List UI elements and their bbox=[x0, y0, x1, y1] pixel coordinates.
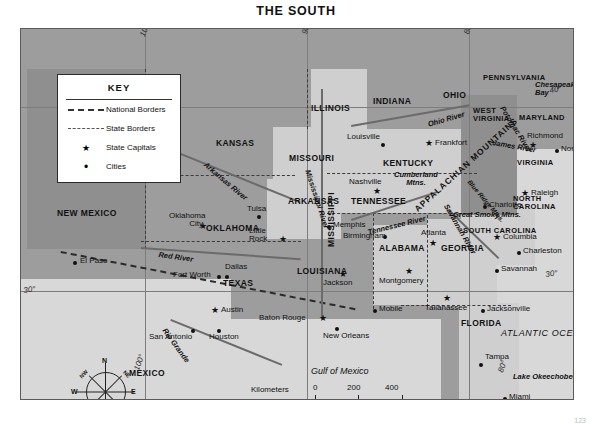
city-marker-fort-worth bbox=[217, 275, 221, 279]
city-label-tulsa: Tulsa bbox=[247, 205, 266, 213]
key-item-state-capitals: ★ State Capitals bbox=[58, 138, 180, 157]
city-label-fort-worth: Fort Worth bbox=[173, 271, 211, 279]
coord-label-30n-right: 30° bbox=[545, 269, 558, 279]
city-marker-louisville bbox=[381, 143, 385, 147]
compass-label-w: W bbox=[71, 388, 78, 395]
capital-label-richmond: Richmond bbox=[527, 132, 563, 140]
coord-label-30n-left: 30° bbox=[23, 285, 36, 295]
state-label-ohio: OHIO bbox=[443, 91, 466, 100]
key-item-label: State Borders bbox=[106, 124, 155, 133]
capital-label-nashville: Nashville bbox=[349, 178, 381, 186]
city-marker-miami bbox=[503, 397, 507, 400]
feature-label-ohio-river: Ohio River bbox=[427, 111, 466, 129]
feature-label-arkansas-river: Arkansas River bbox=[202, 161, 249, 202]
city-label-louisville: Louisville bbox=[347, 133, 380, 141]
dashed-thin-line-icon bbox=[66, 128, 106, 129]
coord-label-90w-top: 90° bbox=[301, 28, 312, 35]
state-label-texas: TEXAS bbox=[223, 279, 253, 288]
key-item-label: State Capitals bbox=[106, 143, 156, 152]
map-page: THE SOUTH bbox=[0, 0, 592, 424]
city-marker-charleston bbox=[517, 251, 521, 255]
state-label-alabama: ALABAMA bbox=[379, 244, 425, 253]
scale-km-tickmark bbox=[358, 395, 359, 400]
feature-label-lake-okeechobee: Lake Okeechobee bbox=[513, 373, 574, 381]
city-marker-jacksonville bbox=[481, 309, 485, 313]
key-item-state-borders: State Borders bbox=[58, 119, 180, 138]
state-label-maryland: MARYLAND bbox=[519, 114, 565, 122]
city-label-dallas: Dallas bbox=[225, 263, 247, 271]
compass-label-nw: NW bbox=[78, 369, 89, 380]
compass-label-n: N bbox=[102, 357, 107, 364]
capital-label-tallahassee: Tallahassee bbox=[425, 304, 467, 312]
city-label-jacksonville: Jacksonville bbox=[487, 305, 530, 313]
compass-label-e: E bbox=[131, 388, 136, 395]
capital-label-atlanta: Atlanta bbox=[421, 229, 446, 237]
capital-marker-frankfort: ★ bbox=[425, 139, 433, 148]
state-label-missouri: MISSOURI bbox=[289, 154, 334, 163]
capital-label-raleigh: Raleigh bbox=[531, 189, 558, 197]
capital-label-jackson: Jackson bbox=[323, 279, 352, 287]
key-item-label: Cities bbox=[106, 162, 126, 171]
city-label-miami: Miami bbox=[509, 393, 530, 400]
city-marker-norfolk bbox=[555, 149, 559, 153]
map-canvas[interactable]: APPALACHIAN MOUNTAINS NEW MEXICO TEXAS O… bbox=[20, 28, 574, 400]
state-label-virginia: VIRGINIA bbox=[517, 159, 554, 167]
capital-marker-nashville: ★ bbox=[373, 187, 381, 196]
city-label-new-orleans: New Orleans bbox=[323, 332, 369, 340]
city-label-charleston: Charleston bbox=[523, 247, 562, 255]
feature-label-cumberland-mtns: Cumberland Mtns. bbox=[393, 171, 439, 186]
compass-spoke-ns bbox=[105, 363, 106, 400]
capital-label-oklahoma-city: Oklahoma City bbox=[169, 212, 203, 228]
city-marker-dallas bbox=[225, 275, 229, 279]
city-marker-tampa bbox=[479, 363, 483, 367]
page-title: THE SOUTH bbox=[0, 4, 592, 18]
city-marker-tulsa bbox=[257, 215, 261, 219]
scale-km-tick-0: 0 bbox=[313, 383, 317, 392]
state-label-illinois: ILLINOIS bbox=[311, 104, 350, 113]
key-item-national-borders: National Borders bbox=[58, 100, 180, 119]
city-label-houston: Houston bbox=[209, 333, 239, 341]
capital-label-montgomery: Montgomery bbox=[379, 277, 423, 285]
page-number: 123 bbox=[574, 417, 586, 424]
parallel-30 bbox=[21, 291, 573, 292]
scale-kilometers-label: Kilometers bbox=[251, 385, 289, 394]
map-key[interactable]: KEY National Borders State Borders ★ Sta… bbox=[57, 74, 181, 183]
capital-label-austin: Austin bbox=[221, 306, 243, 314]
city-label-savannah: Savannah bbox=[501, 265, 537, 273]
capital-label-frankfort: Frankfort bbox=[435, 139, 467, 147]
map-scale: Kilometers SCALE Miles 0 200 400 0 100 2… bbox=[251, 377, 451, 400]
scale-km-tick-200: 200 bbox=[347, 383, 360, 392]
city-marker-savannah bbox=[495, 269, 499, 273]
scale-bar-kilometers bbox=[315, 395, 403, 400]
key-item-cities: • Cities bbox=[58, 157, 180, 176]
city-label-norfolk: Norfolk bbox=[561, 145, 574, 153]
compass-rose: N NE E SE S SW W NW bbox=[73, 359, 139, 400]
state-label-georgia: GEORGIA bbox=[441, 244, 484, 253]
feature-label-gulf-of-mexico: Gulf of Mexico bbox=[311, 367, 369, 376]
key-heading: KEY bbox=[58, 82, 180, 93]
city-marker-el-paso bbox=[73, 261, 77, 265]
scale-km-tick-400: 400 bbox=[385, 383, 398, 392]
state-label-kansas: KANSAS bbox=[216, 139, 254, 148]
capital-marker-tallahassee: ★ bbox=[443, 294, 451, 303]
feature-label-great-smoky-mtns: Great Smoky Mtns. bbox=[453, 211, 521, 219]
key-item-label: National Borders bbox=[106, 105, 166, 114]
capital-marker-montgomery: ★ bbox=[405, 267, 413, 276]
capital-marker-atlanta: ★ bbox=[429, 239, 437, 248]
coord-label-80w-top: 80° bbox=[463, 28, 474, 35]
feature-label-red-river: Red River bbox=[158, 251, 194, 263]
capital-label-little-rock: Little Rock bbox=[249, 227, 279, 243]
dashed-thick-line-icon bbox=[66, 109, 106, 111]
state-border-mo-il bbox=[307, 69, 308, 129]
compass-label-ne: NE bbox=[122, 369, 132, 379]
capital-marker-baton-rouge: ★ bbox=[319, 314, 327, 323]
city-label-memphis: Memphis bbox=[333, 221, 365, 229]
capital-marker-little-rock: ★ bbox=[279, 235, 287, 244]
capital-marker-raleigh: ★ bbox=[521, 189, 529, 198]
capital-marker-austin: ★ bbox=[211, 306, 219, 315]
state-label-kentucky: KENTUCKY bbox=[383, 159, 433, 168]
city-label-tampa: Tampa bbox=[485, 353, 509, 361]
illinois-fill bbox=[311, 69, 367, 131]
city-label-el-paso: El Paso bbox=[80, 257, 108, 265]
capital-marker-columbia: ★ bbox=[493, 233, 501, 242]
